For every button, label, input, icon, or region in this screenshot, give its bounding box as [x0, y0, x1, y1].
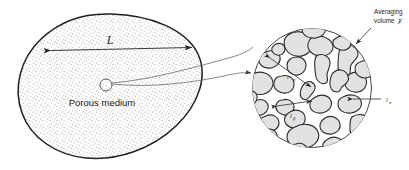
grain	[338, 95, 361, 113]
sigma-label-subscript: σ	[389, 100, 392, 105]
grain	[247, 72, 273, 94]
porous-medium-label: Porous medium	[69, 97, 136, 108]
averaging-volume-label-line1: Averaging	[374, 8, 403, 16]
grain	[350, 114, 369, 138]
grain	[247, 121, 263, 133]
grain	[333, 36, 351, 50]
grain	[290, 143, 307, 156]
callout-arrow-line	[356, 28, 371, 44]
figure-canvas: L Porous medium	[0, 0, 409, 170]
porous-medium-diagram: L Porous medium	[0, 0, 409, 170]
grain	[310, 95, 332, 113]
averaging-volume-label-line2: volume	[374, 17, 395, 24]
length-label: L	[106, 33, 114, 47]
grain	[256, 129, 277, 146]
sigma-label: l	[386, 96, 388, 103]
averaging-volume: r 𝒱 l β l σ Averaging volume 𝒱	[241, 8, 406, 156]
grain	[241, 91, 257, 105]
grain	[315, 54, 330, 83]
grain	[272, 43, 285, 55]
radius-label: r	[287, 73, 290, 80]
grain	[249, 100, 268, 116]
averaging-volume-callout: Averaging volume 𝒱	[356, 8, 406, 44]
grain	[358, 132, 372, 151]
averaging-volume-symbol: 𝒱	[396, 16, 406, 26]
grain	[355, 61, 374, 78]
grain	[320, 116, 340, 134]
beta-label: l	[290, 112, 292, 119]
grain-group	[241, 20, 374, 156]
grain	[323, 137, 343, 154]
